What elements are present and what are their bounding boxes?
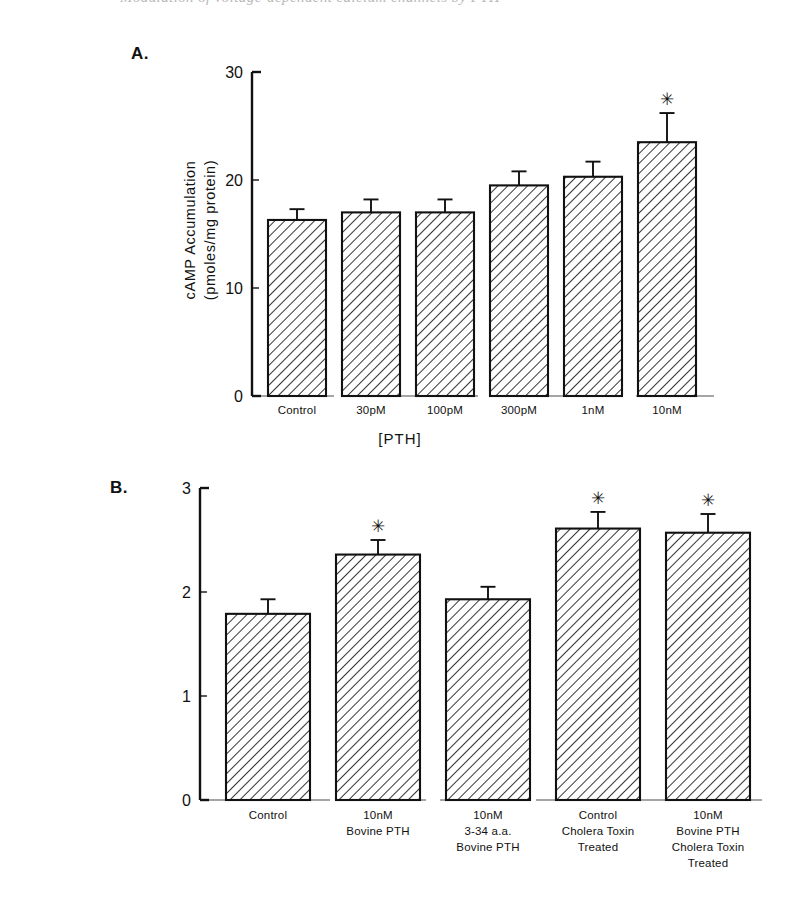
y-tick-label-0: 0 <box>182 792 191 809</box>
significance-marker-4: ✳ <box>701 491 715 510</box>
y-tick-label-2: 2 <box>182 584 191 601</box>
x-tick-label-5-0: 10nM <box>652 404 682 416</box>
y-tick-label-10: 10 <box>225 280 243 297</box>
chart-panel-b: 0123Control✳10nMBovine PTH10nM3-34 a.a.B… <box>0 455 807 913</box>
bar-group-1: ✳ <box>336 517 420 800</box>
x-tick-label-1-1: Bovine PTH <box>346 825 409 837</box>
significance-marker-1: ✳ <box>371 517 385 536</box>
y-axis-title-a: cAMP Accumulation (pmoles/mg protein) <box>180 95 220 365</box>
bar-control-cholera-toxin-treated <box>556 529 640 800</box>
bar-300pm <box>490 185 548 396</box>
bar-group-0 <box>268 209 326 396</box>
x-axis-title-a: [PTH] <box>330 430 470 447</box>
bar-10nm-bovine-pth <box>336 555 420 800</box>
bar-30pm <box>342 212 400 396</box>
bar-control <box>268 220 326 396</box>
x-tick-label-4-2: Cholera Toxin <box>672 841 745 853</box>
bar-10nm-3-34-a-a-bovine-pth <box>446 599 530 800</box>
bar-group-4: ✳ <box>666 491 750 800</box>
x-tick-label-0-0: Control <box>249 809 287 821</box>
bar-10nm <box>638 142 696 396</box>
x-tick-label-4-0: 1nM <box>582 404 605 416</box>
bar-group-5: ✳ <box>638 90 696 396</box>
bar-group-2 <box>446 587 530 800</box>
bar-10nm-bovine-pth-cholera-toxin-treated <box>666 533 750 800</box>
y-tick-label-0: 0 <box>234 388 243 405</box>
x-tick-label-3-1: Cholera Toxin <box>562 825 635 837</box>
x-tick-label-0-0: Control <box>278 404 316 416</box>
plot-area: 0102030Control30pM100pM300pM1nM✳10nM <box>225 64 714 416</box>
x-tick-label-1-0: 30pM <box>356 404 386 416</box>
x-tick-label-4-1: Bovine PTH <box>676 825 739 837</box>
y-tick-label-3: 3 <box>182 480 191 497</box>
bar-group-1 <box>342 199 400 396</box>
y-tick-label-30: 30 <box>225 64 243 81</box>
y-axis-title-a-line1: cAMP Accumulation <box>180 95 200 365</box>
x-tick-label-3-2: Treated <box>578 841 619 853</box>
bar-group-3 <box>490 171 548 396</box>
figure-root: Modulation of voltage-dependent calcium … <box>0 0 807 913</box>
x-tick-label-4-3: Treated <box>688 857 729 869</box>
x-tick-label-2-0: 10nM <box>473 809 503 821</box>
significance-marker-5: ✳ <box>660 90 674 109</box>
bar-chart-b: 0123Control✳10nMBovine PTH10nM3-34 a.a.B… <box>0 455 807 913</box>
bar-group-3: ✳ <box>556 489 640 800</box>
chart-panel-a: 0102030Control30pM100pM300pM1nM✳10nM cAM… <box>0 0 807 460</box>
x-tick-label-2-0: 100pM <box>427 404 463 416</box>
x-tick-label-3-0: Control <box>579 809 617 821</box>
bar-group-0 <box>226 599 310 800</box>
bar-chart-a: 0102030Control30pM100pM300pM1nM✳10nM <box>0 0 807 460</box>
plot-area: 0123Control✳10nMBovine PTH10nM3-34 a.a.B… <box>182 480 768 869</box>
x-tick-label-2-1: 3-34 a.a. <box>464 825 511 837</box>
bar-group-4 <box>564 162 622 396</box>
y-tick-label-20: 20 <box>225 172 243 189</box>
y-axis-title-a-line2: (pmoles/mg protein) <box>200 95 220 365</box>
x-tick-label-4-0: 10nM <box>693 809 723 821</box>
x-tick-label-3-0: 300pM <box>501 404 537 416</box>
bar-group-2 <box>416 199 474 396</box>
x-tick-label-2-2: Bovine PTH <box>456 841 519 853</box>
bar-100pm <box>416 212 474 396</box>
bar-control <box>226 614 310 800</box>
y-tick-label-1: 1 <box>182 688 191 705</box>
x-tick-label-1-0: 10nM <box>363 809 393 821</box>
bar-1nm <box>564 177 622 396</box>
significance-marker-3: ✳ <box>591 489 605 508</box>
